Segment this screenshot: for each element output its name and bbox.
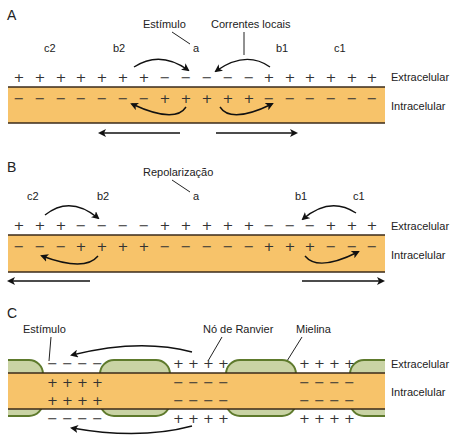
- charge: −: [347, 239, 358, 254]
- stimulus-leader-line: [172, 32, 190, 44]
- extracellular-label: Extracelular: [391, 220, 449, 232]
- charge: +: [76, 239, 87, 254]
- node1-ext-top: − − − −: [47, 356, 103, 371]
- charge: −: [223, 239, 234, 254]
- label-a: a: [193, 42, 200, 54]
- charge: −: [326, 239, 337, 254]
- charge: +: [326, 218, 337, 233]
- extracellular-charges-a: + + + + + + + − − − − − + + + + + +: [14, 70, 378, 85]
- charge: −: [76, 91, 87, 106]
- charge: +: [223, 91, 234, 106]
- charge: −: [367, 91, 378, 106]
- charge: +: [35, 70, 46, 85]
- label-c1: c1: [353, 190, 365, 202]
- node2-int-bottom: − − − −: [173, 393, 229, 408]
- charge: +: [14, 70, 25, 85]
- charge: −: [244, 239, 255, 254]
- charge: −: [160, 70, 171, 85]
- charge: +: [367, 218, 378, 233]
- current-arrow-icon: [45, 206, 98, 218]
- charge: −: [285, 218, 296, 233]
- node2-ext-bottom: + + + +: [173, 411, 229, 426]
- charge: +: [202, 218, 213, 233]
- charge: −: [202, 70, 213, 85]
- node3-int-top: − − − −: [299, 375, 355, 390]
- panel-letter-b: B: [7, 159, 16, 175]
- charge: −: [285, 91, 296, 106]
- label-c2: c2: [44, 42, 56, 54]
- charge: +: [56, 218, 67, 233]
- charge: −: [202, 239, 213, 254]
- charge: +: [347, 70, 358, 85]
- charge: +: [285, 239, 296, 254]
- label-b1: b1: [295, 190, 307, 202]
- charge: −: [14, 91, 25, 106]
- label-b2: b2: [113, 42, 125, 54]
- myelin-label: Mielina: [296, 323, 332, 335]
- charge: −: [367, 239, 378, 254]
- charge: −: [139, 218, 150, 233]
- charge: −: [347, 91, 358, 106]
- local-currents-label: Correntes locais: [211, 18, 291, 30]
- saltatory-current-arrow-icon: [72, 346, 192, 355]
- charge: −: [14, 239, 25, 254]
- charge: +: [139, 70, 150, 85]
- charge: −: [56, 91, 67, 106]
- stimulus-label: Estímulo: [143, 18, 186, 30]
- charge: +: [285, 70, 296, 85]
- label-a: a: [193, 190, 200, 202]
- panel-letter-a: A: [7, 7, 17, 23]
- charge: +: [326, 70, 337, 85]
- charge: +: [181, 91, 192, 106]
- panel-a: A Estímulo a Correntes locais c2 b2 b1 c…: [7, 7, 449, 133]
- node2-int-top: − − − −: [173, 375, 229, 390]
- charge: +: [14, 218, 25, 233]
- charge: +: [118, 70, 129, 85]
- node1-ext-bottom: − − − −: [47, 411, 103, 426]
- charge: +: [347, 218, 358, 233]
- panel-b: B Repolarização a c2 b2 b1 c1 + + + − − …: [7, 159, 449, 281]
- label-b2: b2: [97, 190, 109, 202]
- charge: +: [305, 239, 316, 254]
- panel-c: C Estímulo Nó de Ranvier Mielina − − − −…: [0, 305, 453, 434]
- charge: −: [118, 218, 129, 233]
- charge: +: [97, 70, 108, 85]
- charge: −: [305, 91, 316, 106]
- intracellular-label: Intracelular: [391, 249, 446, 261]
- charge: −: [35, 91, 46, 106]
- charge: +: [139, 239, 150, 254]
- label-b1: b1: [276, 42, 288, 54]
- node1-int-bottom: + + + +: [47, 393, 103, 408]
- charge: −: [160, 239, 171, 254]
- action-potential-diagram: A Estímulo a Correntes locais c2 b2 b1 c…: [0, 0, 453, 441]
- node3-ext-top: + + + +: [299, 356, 355, 371]
- charge: −: [35, 239, 46, 254]
- node1-int-top: + + + +: [47, 375, 103, 390]
- intracellular-label: Intracelular: [391, 100, 446, 112]
- charge: +: [76, 70, 87, 85]
- charge: −: [118, 91, 129, 106]
- node-of-ranvier-label: Nó de Ranvier: [203, 323, 274, 335]
- extracellular-charges-b: + + + − − − − + + + + + − − − + + +: [14, 218, 378, 233]
- charge: −: [264, 218, 275, 233]
- charge: −: [305, 218, 316, 233]
- charge: +: [202, 91, 213, 106]
- charge: +: [244, 218, 255, 233]
- charge: +: [160, 218, 171, 233]
- charge: −: [264, 91, 275, 106]
- node2-ext-top: + + + +: [173, 356, 229, 371]
- charge: +: [181, 218, 192, 233]
- charge: +: [56, 70, 67, 85]
- node3-int-bottom: − − − −: [299, 393, 355, 408]
- charge: −: [181, 239, 192, 254]
- charge: +: [264, 239, 275, 254]
- charge: +: [244, 91, 255, 106]
- charge: −: [76, 218, 87, 233]
- charge: −: [97, 218, 108, 233]
- repolarization-label: Repolarização: [143, 166, 213, 178]
- charge: +: [305, 70, 316, 85]
- label-c2: c2: [27, 190, 39, 202]
- node3-ext-bottom: + + + +: [299, 411, 355, 426]
- panel-letter-c: C: [7, 305, 17, 321]
- charge: +: [118, 239, 129, 254]
